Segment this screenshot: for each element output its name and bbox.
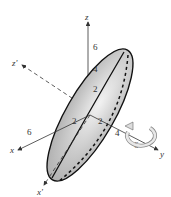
- rotation-arrow-icon: [125, 122, 155, 146]
- z-prime-axis-label: z': [11, 58, 19, 68]
- x-axis-label: x: [9, 145, 14, 155]
- y-tick-4: 4: [115, 128, 120, 138]
- inner-tick-2a: 2: [72, 116, 77, 126]
- z-axis-label: z: [84, 12, 89, 22]
- z-tick-6: 6: [93, 42, 98, 52]
- inner-tick-2b: 2: [98, 116, 103, 126]
- y-axis-label: y: [159, 149, 164, 159]
- ellipsoid-diagram: z z' x x' y 6 4 2 6 4 6 2 2: [0, 0, 171, 197]
- z-tick-4: 4: [93, 64, 98, 74]
- x-prime-axis-label: x': [36, 187, 44, 197]
- z-tick-2: 2: [93, 84, 98, 94]
- x-tick-6: 6: [27, 127, 32, 137]
